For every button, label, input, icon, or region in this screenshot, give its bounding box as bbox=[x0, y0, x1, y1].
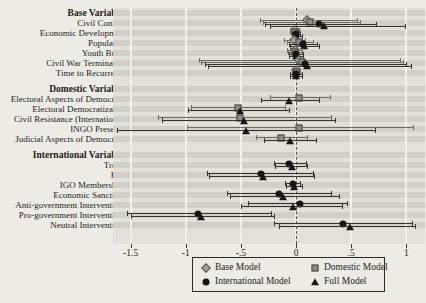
ci-cap-low bbox=[117, 128, 118, 133]
row-label-igo-memberships: IGO Memberships bbox=[0, 180, 127, 190]
ci-cap-low bbox=[265, 22, 266, 27]
x-tick-label-1: 1 bbox=[404, 248, 409, 258]
ci-cap-low bbox=[209, 174, 210, 179]
row-label-pta: PTA bbox=[0, 170, 127, 180]
ci-cap-high bbox=[411, 64, 412, 69]
ci-cap-low bbox=[284, 38, 285, 43]
row-shading-band bbox=[113, 150, 425, 230]
ci-cap-high bbox=[302, 74, 303, 79]
ci-cap-low bbox=[188, 108, 189, 113]
legend-item-domestic: Domestic Model bbox=[310, 262, 388, 273]
ci-cap-high bbox=[413, 125, 414, 130]
row-label-judicial-aspects-of-democracy: Judicial Aspects of Democracy bbox=[0, 134, 127, 144]
ci-cap-low bbox=[261, 98, 262, 103]
legend-label-domestic: Domestic Model bbox=[324, 262, 388, 273]
ci-cap-low bbox=[287, 40, 288, 45]
group-header-domestic-variables: Domestic Variables bbox=[0, 84, 127, 94]
row-label-civil-conflict: Civil Conflict bbox=[0, 18, 127, 28]
row-label-neutral-interventions: Neutral Interventions bbox=[0, 220, 127, 230]
ci-cap-low bbox=[241, 204, 242, 209]
gridline--1.5 bbox=[130, 8, 132, 244]
square-glyph bbox=[311, 264, 318, 271]
triangle-marker-full bbox=[286, 137, 294, 144]
diamond-glyph bbox=[201, 263, 211, 273]
ci-cap-low bbox=[263, 20, 264, 25]
ci-cap-high bbox=[316, 138, 317, 143]
ci-cap-low bbox=[286, 184, 287, 189]
ci-cap-high bbox=[319, 98, 320, 103]
ci-cap-low bbox=[270, 24, 271, 29]
row-label-electoral-democratization: Electoral Democratization bbox=[0, 104, 127, 114]
ci-cap-low bbox=[199, 58, 200, 63]
triangle-marker-full bbox=[303, 62, 311, 69]
x-tick-label--1: -1 bbox=[182, 248, 190, 258]
ci-cap-high bbox=[307, 164, 308, 169]
ci-cap-low bbox=[279, 224, 280, 229]
legend-box: Base ModelDomestic ModelInternational Mo… bbox=[192, 257, 385, 292]
ci-cap-low bbox=[260, 18, 261, 23]
ci-cap-low bbox=[158, 115, 159, 120]
ci-cap-high bbox=[415, 224, 416, 229]
ci-cap-low bbox=[256, 135, 257, 140]
row-label-economic-sanctions: Economic Sanctions bbox=[0, 190, 127, 200]
ci-cap-low bbox=[207, 171, 208, 176]
row-label-anti-government-interventions: Anti-government Interventions bbox=[0, 200, 127, 210]
legend-label-international: International Model bbox=[215, 276, 291, 287]
ci-cap-high bbox=[274, 214, 275, 219]
ci-cap-low bbox=[201, 60, 202, 65]
legend-item-international: International Model bbox=[201, 276, 308, 287]
row-shading-band bbox=[113, 84, 425, 144]
x-tick-label--1.5: -1.5 bbox=[123, 248, 138, 258]
row-label-ingo-presence: INGO Presence bbox=[0, 124, 127, 134]
triangle-marker-full bbox=[289, 203, 297, 210]
row-label-civil-war-termination: Civil War Termination bbox=[0, 58, 127, 68]
row-label-electoral-aspects-of-democracy: Electoral Aspects of Democracy bbox=[0, 94, 127, 104]
row-label-treaty: Treaty bbox=[0, 160, 127, 170]
triangle-glyph bbox=[311, 278, 319, 285]
ci-cap-high bbox=[405, 24, 406, 29]
triangle-marker-full bbox=[320, 22, 328, 29]
ci-cap-low bbox=[162, 118, 163, 123]
ci-cap-low bbox=[264, 138, 265, 143]
plot-panel bbox=[113, 8, 425, 244]
ci-cap-high bbox=[375, 128, 376, 133]
legend-label-full: Full Model bbox=[324, 276, 367, 287]
gridline-.5 bbox=[350, 8, 352, 244]
row-label-pro-government-interventions: Pro-government Interventions bbox=[0, 210, 127, 220]
ci-cap-low bbox=[289, 54, 290, 59]
triangle-marker-full bbox=[346, 223, 354, 230]
row-label-civil-resistance-international: Civil Resistance (International) bbox=[0, 114, 127, 124]
ci-cap-low bbox=[230, 194, 231, 199]
ci-cap-low bbox=[227, 191, 228, 196]
legend-item-base: Base Model bbox=[201, 262, 308, 273]
ci-cap-high bbox=[319, 44, 320, 49]
ci-cap-low bbox=[131, 214, 132, 219]
ci-cap-high bbox=[342, 204, 343, 209]
ci-cap-high bbox=[330, 95, 331, 100]
triangle-marker-full bbox=[285, 97, 293, 104]
triangle-icon bbox=[310, 277, 319, 286]
triangle-marker-full bbox=[288, 163, 296, 170]
row-label-economic-development: Economic Development bbox=[0, 28, 127, 38]
ci-cap-low bbox=[274, 221, 275, 226]
ci-cap-high bbox=[347, 201, 348, 206]
group-header-international-variables: International Variables bbox=[0, 150, 127, 160]
circle-glyph bbox=[202, 278, 209, 285]
triangle-marker-full bbox=[236, 107, 244, 114]
ci-cap-high bbox=[289, 108, 290, 113]
triangle-marker-full bbox=[242, 127, 250, 134]
row-shading-band bbox=[113, 8, 425, 78]
ci-cap-high bbox=[314, 174, 315, 179]
ci-cap-low bbox=[208, 64, 209, 69]
coefficient-forest-plot: Base VariablesCivil ConflictEconomic Dev… bbox=[0, 0, 426, 303]
row-label-population: Population bbox=[0, 38, 127, 48]
triangle-marker-full bbox=[290, 183, 298, 190]
row-label-time-to-recurrence: Time to Recurrence bbox=[0, 68, 127, 78]
triangle-marker-full bbox=[240, 117, 248, 124]
triangle-marker-full bbox=[259, 173, 267, 180]
group-header-base-variables: Base Variables bbox=[0, 8, 127, 18]
ci-cap-low bbox=[127, 211, 128, 216]
ci-cap-low bbox=[205, 62, 206, 67]
diamond-icon bbox=[201, 263, 210, 272]
circle-icon bbox=[201, 277, 210, 286]
